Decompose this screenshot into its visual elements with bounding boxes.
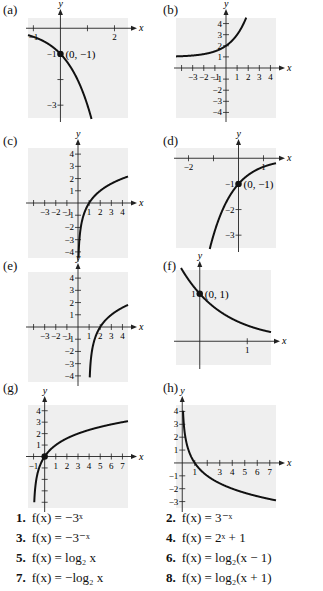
svg-text:4: 4 [174, 406, 179, 416]
svg-text:−1: −1 [169, 471, 179, 481]
svg-text:2: 2 [174, 432, 179, 442]
svg-text:6: 6 [255, 467, 260, 477]
choice-4: 4.f(x) = 2ˣ + 1 [166, 530, 246, 546]
choice-3: 3.f(x) = −3⁻ˣ [16, 530, 90, 546]
choice-8: 8.f(x) = log₂(x + 1) [166, 570, 272, 586]
svg-text:3: 3 [174, 419, 179, 429]
svg-text:3: 3 [218, 467, 223, 477]
svg-text:1: 1 [193, 467, 198, 477]
svg-text:1: 1 [174, 445, 179, 455]
choice-5: 5.f(x) = log₂ x [16, 550, 96, 566]
svg-text:7: 7 [268, 467, 273, 477]
choice-2: 2.f(x) = 3⁻ˣ [166, 510, 232, 526]
svg-text:y: y [179, 385, 185, 396]
choice-1: 1.f(x) = −3ˣ [16, 510, 83, 526]
svg-text:−2: −2 [169, 484, 179, 494]
svg-text:4: 4 [230, 467, 235, 477]
graph-svg: xy1345674321−1−2−3 [0, 0, 323, 591]
choice-7: 7.f(x) = −log₂ x [16, 570, 103, 586]
svg-text:x: x [286, 457, 292, 468]
svg-text:−3: −3 [169, 497, 179, 507]
choice-6: 6.f(x) = log₂(x − 1) [166, 550, 272, 566]
svg-text:5: 5 [243, 467, 248, 477]
